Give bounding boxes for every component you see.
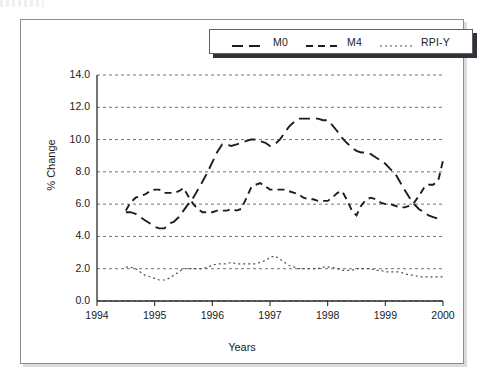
series-line-m0	[126, 119, 443, 229]
legend-swatch-rpi-y	[380, 37, 414, 47]
axis-ticks-group	[97, 301, 443, 306]
x-tick-label: 1995	[130, 309, 180, 321]
legend-label: RPI-Y	[421, 36, 450, 48]
legend-label: M4	[347, 36, 362, 48]
x-axis-title: Years	[21, 341, 463, 353]
y-tick-label: 4.0	[75, 229, 90, 241]
legend-swatch-m4	[306, 37, 340, 47]
cropped-caption-fragment	[0, 0, 44, 7]
series-line-m4	[126, 161, 443, 216]
x-tick-label: 2000	[418, 309, 468, 321]
y-tick-label: 6.0	[75, 197, 90, 209]
data-series-group	[126, 119, 443, 280]
y-tick-label: 2.0	[75, 262, 90, 274]
x-tick-label: 1994	[72, 309, 122, 321]
x-tick-label: 1996	[187, 309, 237, 321]
y-tick-label: 0.0	[75, 294, 90, 306]
x-tick-label: 1997	[245, 309, 295, 321]
gridlines-group	[97, 75, 443, 301]
legend-swatch-m0	[232, 37, 266, 47]
x-tick-label: 1998	[303, 309, 353, 321]
chart-figure-frame: 0.02.04.06.08.010.012.014.0 199419951996…	[20, 19, 464, 364]
legend-entry-rpi-y[interactable]: RPI-Y	[380, 36, 450, 48]
y-tick-label: 12.0	[70, 100, 90, 112]
y-axis-title: % Change	[45, 125, 57, 245]
y-tick-label: 8.0	[75, 165, 90, 177]
x-tick-label: 1999	[360, 309, 410, 321]
series-line-rpi-y	[126, 256, 443, 280]
legend-entry-m0[interactable]: M0	[232, 36, 288, 48]
chart-legend[interactable]: M0M4RPI-Y	[209, 29, 473, 54]
axes-group	[97, 75, 443, 301]
legend-entry-m4[interactable]: M4	[306, 36, 362, 48]
y-tick-label: 14.0	[70, 68, 90, 80]
y-tick-label: 10.0	[70, 133, 90, 145]
legend-label: M0	[273, 36, 288, 48]
